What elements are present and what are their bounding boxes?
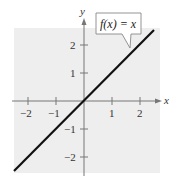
- x-tick-label-neg1: −1: [48, 107, 60, 119]
- x-tick-label-2: 2: [137, 107, 143, 119]
- y-axis-label: y: [79, 5, 85, 17]
- y-tick-label-neg1: −1: [64, 123, 76, 135]
- x-tick-label-neg2: −2: [20, 107, 32, 119]
- y-tick-label-2: 2: [70, 39, 76, 51]
- y-tick-label-1: 1: [70, 67, 76, 79]
- x-axis-label: x: [163, 94, 169, 106]
- x-tick-label-1: 1: [109, 107, 115, 119]
- function-label: f(x) = x: [100, 17, 137, 31]
- y-axis-arrow-icon: [82, 18, 87, 25]
- y-tick-label-neg2: −2: [64, 151, 76, 163]
- function-graph: x y −2 −1 1 2 2 1 −1 −2 f(x) = x: [0, 0, 172, 185]
